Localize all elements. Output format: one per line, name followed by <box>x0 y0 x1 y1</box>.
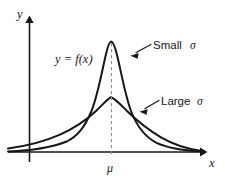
function-label: y = f(x) <box>53 52 93 66</box>
distribution-chart-canvas: y x μ y = f(x) Small σ Large σ <box>0 0 225 183</box>
large-sigma-label: Large <box>161 95 190 107</box>
x-axis-label: x <box>208 156 215 170</box>
y-axis-label: y <box>15 7 23 21</box>
mean-label: μ <box>106 161 113 175</box>
small-sigma-label: Small <box>153 39 182 51</box>
chart-background <box>0 0 225 183</box>
normal-distribution-figure: y x μ y = f(x) Small σ Large σ <box>0 0 225 183</box>
